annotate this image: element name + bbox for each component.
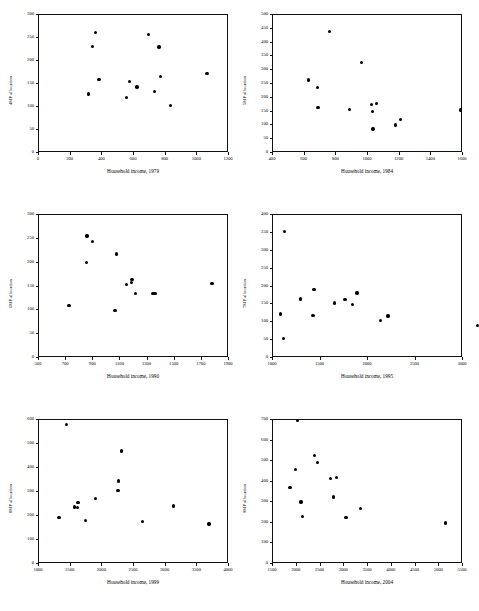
data-point bbox=[210, 282, 213, 285]
x-axis-tick-label: 2500 bbox=[401, 361, 429, 366]
y-axis-tick-mark bbox=[270, 124, 273, 125]
y-axis-tick-mark bbox=[270, 138, 273, 139]
x-axis-title: Household income, 2004 bbox=[272, 579, 462, 585]
y-axis-tick-mark bbox=[270, 460, 273, 461]
plot-area bbox=[272, 14, 462, 152]
x-axis-tick-mark bbox=[196, 563, 197, 566]
y-axis-tick-mark bbox=[270, 55, 273, 56]
x-axis-tick-label: 400 bbox=[87, 156, 115, 161]
y-axis-tick-mark bbox=[270, 232, 273, 233]
x-axis-tick-label: 1200 bbox=[385, 156, 413, 161]
x-axis-tick-label: 5500 bbox=[448, 567, 476, 572]
x-axis-tick-mark bbox=[296, 563, 297, 566]
data-point bbox=[360, 61, 363, 64]
data-point bbox=[85, 261, 88, 264]
y-axis-tick-mark bbox=[270, 28, 273, 29]
plot-area bbox=[38, 214, 228, 357]
data-point bbox=[207, 522, 210, 525]
x-axis-tick-mark bbox=[196, 152, 197, 155]
y-axis-tick-mark bbox=[36, 286, 39, 287]
data-point bbox=[283, 230, 286, 233]
y-axis-tick-mark bbox=[270, 97, 273, 98]
x-axis-tick-mark bbox=[174, 357, 175, 360]
y-axis-tick-mark bbox=[36, 106, 39, 107]
x-axis-tick-label: 800 bbox=[321, 156, 349, 161]
x-axis-tick-mark bbox=[367, 357, 368, 360]
scatter-panel: 0100200300400500600100015002000250030003… bbox=[0, 405, 234, 611]
data-point bbox=[57, 516, 60, 519]
scatter-panel: 0501001502002503005007009001100130015001… bbox=[0, 200, 234, 405]
x-axis-tick-label: 1000 bbox=[353, 156, 381, 161]
x-axis-tick-mark bbox=[367, 152, 368, 155]
x-axis-tick-label: 700 bbox=[51, 361, 79, 366]
x-axis-tick-mark bbox=[228, 152, 229, 155]
data-point bbox=[444, 521, 447, 524]
y-axis-tick-mark bbox=[270, 542, 273, 543]
y-axis-tick-label: 300 bbox=[246, 66, 268, 71]
x-axis-tick-mark bbox=[343, 563, 344, 566]
x-axis-tick-mark bbox=[70, 152, 71, 155]
x-axis-tick-label: 2000 bbox=[353, 361, 381, 366]
x-axis-tick-label: 500 bbox=[24, 361, 52, 366]
y-axis-tick-label: 600 bbox=[246, 437, 268, 442]
y-axis-tick-mark bbox=[36, 60, 39, 61]
data-point bbox=[76, 501, 79, 504]
x-axis-tick-label: 1000 bbox=[182, 156, 210, 161]
y-axis-tick-mark bbox=[36, 419, 39, 420]
y-axis-tick-mark bbox=[36, 262, 39, 263]
y-axis-tick-mark bbox=[270, 250, 273, 251]
x-axis-tick-mark bbox=[438, 563, 439, 566]
data-point bbox=[312, 288, 315, 291]
y-axis-tick-label: 100 bbox=[12, 536, 34, 541]
y-axis-tick-label: 150 bbox=[12, 80, 34, 85]
x-axis-tick-mark bbox=[38, 563, 39, 566]
data-point bbox=[172, 504, 175, 507]
plot-area bbox=[38, 14, 228, 152]
data-point bbox=[135, 85, 138, 88]
x-axis-tick-label: 1500 bbox=[306, 361, 334, 366]
y-axis-tick-label: 100 bbox=[246, 121, 268, 126]
data-point bbox=[153, 90, 156, 93]
x-axis-tick-label: 900 bbox=[78, 361, 106, 366]
y-axis-tick-mark bbox=[270, 286, 273, 287]
x-axis-tick-label: 3000 bbox=[151, 567, 179, 572]
data-point bbox=[67, 304, 70, 307]
x-axis-tick-mark bbox=[391, 563, 392, 566]
x-axis-tick-mark bbox=[430, 152, 431, 155]
data-point bbox=[85, 234, 88, 237]
x-axis-title: Household income, 1979 bbox=[38, 168, 228, 174]
y-axis-tick-label: 400 bbox=[246, 478, 268, 483]
x-axis-tick-mark bbox=[462, 563, 463, 566]
x-axis-tick-mark bbox=[304, 152, 305, 155]
y-axis-tick-mark bbox=[36, 333, 39, 334]
data-point bbox=[282, 337, 285, 340]
plot-area bbox=[272, 214, 462, 357]
x-axis-tick-mark bbox=[228, 357, 229, 360]
data-point bbox=[299, 500, 302, 503]
data-point bbox=[307, 78, 310, 81]
y-axis-tick-label: 50 bbox=[12, 126, 34, 131]
y-axis-tick-label: 0 bbox=[12, 354, 34, 359]
scatter-panel: 0100200300400500600700150020002500300035… bbox=[234, 405, 468, 611]
x-axis-tick-mark bbox=[92, 357, 93, 360]
data-point bbox=[371, 127, 374, 130]
data-point bbox=[87, 92, 90, 95]
x-axis-tick-label: 2500 bbox=[119, 567, 147, 572]
y-axis-tick-label: 0 bbox=[246, 354, 268, 359]
y-axis-tick-mark bbox=[270, 481, 273, 482]
x-axis-tick-mark bbox=[38, 152, 39, 155]
x-axis-tick-mark bbox=[228, 563, 229, 566]
data-point bbox=[299, 297, 302, 300]
y-axis-tick-mark bbox=[270, 111, 273, 112]
y-axis-tick-mark bbox=[270, 42, 273, 43]
y-axis-tick-label: 150 bbox=[246, 108, 268, 113]
y-axis-tick-label: 350 bbox=[246, 52, 268, 57]
y-axis-title: 7MP allocation bbox=[242, 279, 247, 308]
data-point bbox=[130, 278, 133, 281]
data-point bbox=[288, 486, 291, 489]
y-axis-tick-mark bbox=[36, 14, 39, 15]
x-axis-tick-mark bbox=[201, 357, 202, 360]
data-point bbox=[113, 309, 116, 312]
y-axis-tick-mark bbox=[270, 268, 273, 269]
y-axis-tick-label: 400 bbox=[246, 39, 268, 44]
